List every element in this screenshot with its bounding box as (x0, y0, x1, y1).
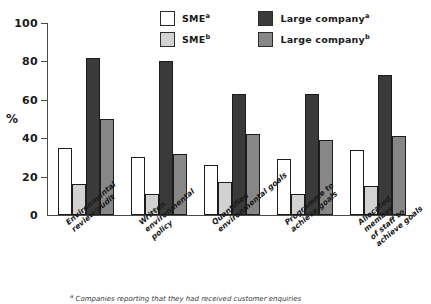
y-tick-40: 40 (10, 132, 38, 145)
bar-chart: SMEa Large companya SMEb Large companyb … (0, 0, 431, 304)
y-tick-100: 100 (10, 17, 38, 30)
bar (350, 150, 364, 215)
y-tick-80: 80 (10, 55, 38, 68)
chart-footnote: a Companies reporting that they had rece… (70, 295, 301, 303)
y-tick-60: 60 (10, 93, 38, 106)
bar (131, 157, 145, 215)
x-axis-category-labels: Environmental review/auditWritten enviro… (0, 216, 431, 304)
bar (58, 148, 72, 215)
bar (204, 165, 218, 215)
y-tick-20: 20 (10, 170, 38, 183)
